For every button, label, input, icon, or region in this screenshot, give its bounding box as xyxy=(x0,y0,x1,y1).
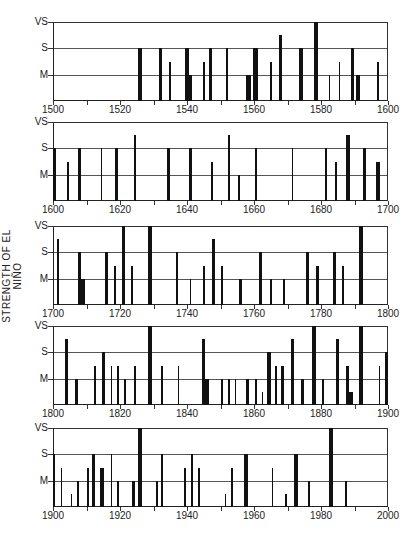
x-tick-label: 2000 xyxy=(368,510,408,521)
el-nino-event-bar xyxy=(203,266,205,306)
x-tick xyxy=(355,507,356,511)
el-nino-event-bar xyxy=(161,454,163,507)
x-tick-label: 1600 xyxy=(33,204,73,215)
el-nino-event-bar xyxy=(356,75,359,101)
el-nino-event-bar xyxy=(306,252,309,305)
x-tick-label: 1900 xyxy=(33,510,73,521)
el-nino-event-bar xyxy=(333,252,336,305)
x-tick-label: 1660 xyxy=(234,204,274,215)
el-nino-event-bar xyxy=(102,352,105,405)
el-nino-event-bar xyxy=(267,352,270,405)
x-tick-label: 1880 xyxy=(301,408,341,419)
el-nino-event-bar xyxy=(148,326,151,405)
el-nino-event-bar xyxy=(335,162,337,202)
x-tick-label: 1820 xyxy=(100,408,140,419)
y-tick-label: S xyxy=(18,43,48,53)
panel-1900-2000: VSSM190019201940196019802000 xyxy=(53,428,388,507)
el-nino-event-bar xyxy=(122,226,125,305)
x-tick-label: 1520 xyxy=(100,104,140,115)
el-nino-event-bar xyxy=(363,148,366,201)
y-tick-label: S xyxy=(18,143,48,153)
el-nino-event-bar xyxy=(61,468,63,508)
el-nino-event-bar xyxy=(131,266,133,306)
x-tick xyxy=(154,405,155,409)
el-nino-event-bar xyxy=(161,366,163,406)
x-tick xyxy=(288,201,289,205)
el-nino-event-bar xyxy=(117,366,119,406)
el-nino-event-bar xyxy=(308,481,310,507)
el-nino-event-bar xyxy=(81,279,84,305)
el-nino-event-bar xyxy=(246,379,249,405)
x-tick-label: 1940 xyxy=(167,510,207,521)
x-tick xyxy=(288,305,289,309)
x-tick xyxy=(154,507,155,511)
el-nino-event-bar xyxy=(111,454,113,507)
x-tick-label: 1900 xyxy=(368,408,408,419)
y-tick-label: VS xyxy=(18,423,48,433)
el-nino-event-bar xyxy=(134,135,136,201)
x-tick-label: 1700 xyxy=(368,204,408,215)
el-nino-event-bar xyxy=(291,339,294,405)
el-nino-event-bar xyxy=(184,468,186,508)
el-nino-event-bar xyxy=(167,148,170,201)
el-nino-event-bar xyxy=(53,148,56,201)
el-nino-event-bar xyxy=(92,454,95,507)
el-nino-event-bar xyxy=(159,48,162,101)
x-tick xyxy=(355,201,356,205)
el-nino-event-bar xyxy=(189,148,192,201)
x-tick xyxy=(288,101,289,105)
x-tick-label: 1500 xyxy=(33,104,73,115)
panel-1600-1700: VSSM160016201640166016801700 xyxy=(53,122,388,201)
el-nino-event-bar xyxy=(53,454,55,507)
el-nino-event-bar xyxy=(346,135,350,201)
y-tick-label: VS xyxy=(18,221,48,231)
el-nino-event-bar xyxy=(231,468,233,508)
el-nino-event-bar xyxy=(351,48,354,101)
y-tick-label: S xyxy=(18,347,48,357)
x-tick xyxy=(221,507,222,511)
x-tick xyxy=(221,201,222,205)
el-nino-event-bar xyxy=(228,379,230,405)
el-nino-event-bar xyxy=(134,366,136,406)
el-nino-event-bar xyxy=(279,35,282,101)
el-nino-event-bar xyxy=(292,148,294,201)
el-nino-event-bar xyxy=(270,62,272,102)
x-tick-label: 1620 xyxy=(100,204,140,215)
el-nino-event-bar xyxy=(329,428,333,507)
el-nino-event-bar xyxy=(314,22,317,101)
panel-1700-1800: VSSM170017201740176017801800 xyxy=(53,226,388,305)
x-tick-label: 1740 xyxy=(167,308,207,319)
el-nino-event-bar xyxy=(178,366,180,406)
x-tick xyxy=(355,101,356,105)
el-nino-event-bar xyxy=(75,379,78,405)
y-tick-label: M xyxy=(18,476,48,486)
el-nino-event-bar xyxy=(156,481,158,507)
x-tick xyxy=(154,305,155,309)
el-nino-event-bar xyxy=(283,279,285,305)
x-tick-label: 1700 xyxy=(33,308,73,319)
el-nino-event-bar xyxy=(117,481,119,507)
el-nino-event-bar xyxy=(114,266,116,306)
el-nino-event-bar xyxy=(376,162,379,202)
el-nino-event-bar xyxy=(255,148,257,201)
x-tick xyxy=(221,305,222,309)
el-nino-event-bar xyxy=(262,392,264,405)
y-tick-label: M xyxy=(18,374,48,384)
x-tick xyxy=(288,405,289,409)
el-nino-event-bar xyxy=(169,62,171,102)
el-nino-event-bar xyxy=(111,366,113,406)
el-nino-event-bar xyxy=(205,379,208,405)
el-nino-event-bar xyxy=(316,266,319,306)
el-nino-event-bar xyxy=(190,279,192,305)
el-nino-event-bar xyxy=(342,266,344,306)
el-nino-event-bar xyxy=(235,379,237,405)
el-nino-event-bar xyxy=(253,48,258,101)
el-nino-event-bar xyxy=(349,392,352,405)
el-nino-event-bar xyxy=(325,148,327,201)
el-nino-event-bar xyxy=(138,48,141,101)
el-nino-event-bar xyxy=(77,481,79,507)
el-nino-event-bar xyxy=(101,148,103,201)
el-nino-event-bar xyxy=(71,494,73,507)
el-nino-event-bar xyxy=(301,379,304,405)
x-tick xyxy=(154,201,155,205)
